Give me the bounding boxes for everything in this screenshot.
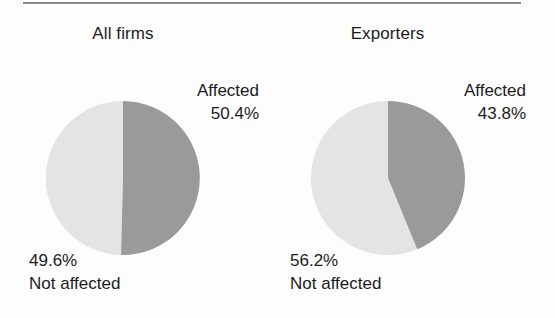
panel-all-firms: All firms Affected 50.4% 49.6% Not affec…: [0, 0, 277, 318]
callout-affected-value-exporters: 43.8%: [370, 102, 526, 125]
callout-affected-label-exporters: Affected: [370, 79, 526, 102]
callout-not-affected-value-exporters: 56.2%: [290, 249, 381, 272]
callout-not-affected-exporters: 56.2% Not affected: [290, 249, 381, 295]
callout-not-affected-value-all-firms: 49.6%: [29, 249, 120, 272]
callout-affected-label-all-firms: Affected: [96, 79, 259, 102]
callout-not-affected-label-exporters: Not affected: [290, 272, 381, 295]
callout-affected-exporters: Affected 43.8%: [370, 79, 526, 125]
panel-title-exporters: Exporters: [266, 24, 509, 44]
panel-exporters: Exporters Affected 43.8% 56.2% Not affec…: [266, 0, 543, 318]
pie-chart-figure: All firms Affected 50.4% 49.6% Not affec…: [0, 0, 555, 318]
panel-title-all-firms: All firms: [0, 24, 246, 44]
callout-not-affected-label-all-firms: Not affected: [29, 272, 120, 295]
callout-not-affected-all-firms: 49.6% Not affected: [29, 249, 120, 295]
callout-affected-all-firms: Affected 50.4%: [96, 79, 259, 125]
callout-affected-value-all-firms: 50.4%: [96, 102, 259, 125]
